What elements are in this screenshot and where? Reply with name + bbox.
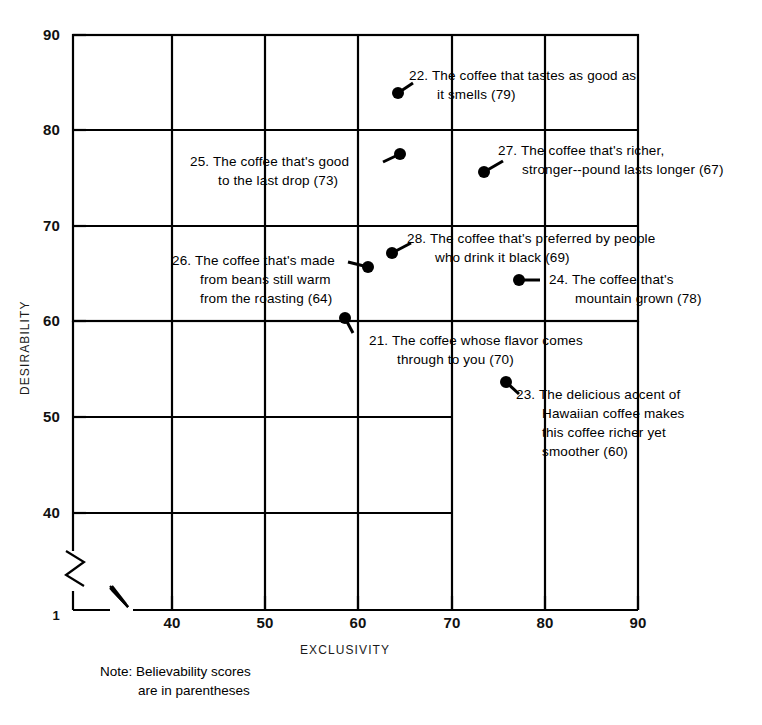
point-26-line1: The coffee that's made	[195, 253, 335, 268]
data-point-24	[513, 274, 540, 286]
y-tick-1: 1	[38, 608, 60, 623]
point-21-number: 21.	[369, 333, 388, 348]
y-tick-50: 50	[20, 408, 60, 425]
point-23-number: 23.	[516, 387, 535, 402]
point-25-number: 25.	[190, 154, 209, 169]
point-27-line2: stronger--pound lasts longer (67)	[498, 160, 724, 179]
point-23-line2: Hawaiian coffee makes	[516, 404, 684, 423]
x-tick-marks	[172, 596, 638, 610]
x-tick-60: 60	[338, 614, 378, 631]
chart-note: Note: Believability scores are in parent…	[100, 662, 251, 700]
x-axis-title: EXCLUSIVITY	[300, 643, 390, 657]
data-point-26	[348, 261, 374, 273]
point-21-line2: through to you (70)	[369, 350, 583, 369]
point-23-line4: smoother (60)	[516, 442, 684, 461]
point-24-line2: mountain grown (78)	[549, 289, 702, 308]
data-point-21	[339, 312, 353, 333]
point-label-27: 27. The coffee that's richer, stronger--…	[498, 141, 724, 179]
chart-note-line1: Note: Believability scores	[100, 664, 251, 679]
point-22-number: 22.	[409, 68, 428, 83]
point-label-21: 21. The coffee whose flavor comes throug…	[369, 331, 583, 369]
point-27-line1: The coffee that's richer,	[521, 143, 664, 158]
y-tick-70: 70	[20, 217, 60, 234]
point-26-line3: from the roasting (64)	[172, 289, 335, 308]
data-point-25	[383, 148, 406, 162]
y-axis-title: DESIRABILITY	[18, 300, 32, 395]
point-28-line1: The coffee that's preferred by people	[430, 231, 656, 246]
x-tick-90: 90	[618, 614, 658, 631]
y-tick-marks	[73, 35, 86, 513]
x-tick-70: 70	[432, 614, 472, 631]
point-26-line2: from beans still warm	[172, 270, 335, 289]
point-label-25: 25. The coffee that's good to the last d…	[190, 152, 349, 190]
point-22-line2: it smells (79)	[409, 85, 636, 104]
point-22-line1: The coffee that tastes as good as	[432, 68, 636, 83]
point-26-number: 26.	[172, 253, 191, 268]
point-28-line2: who drink it black (69)	[407, 248, 655, 267]
point-28-number: 28.	[407, 231, 426, 246]
vertical-gridlines	[172, 35, 545, 610]
x-tick-40: 40	[152, 614, 192, 631]
point-23-line1: The delicious accent of	[539, 387, 681, 402]
x-tick-50: 50	[245, 614, 285, 631]
point-21-line1: The coffee whose flavor comes	[392, 333, 583, 348]
point-label-22: 22. The coffee that tastes as good as it…	[409, 66, 636, 104]
chart-note-line2: are in parentheses	[100, 681, 251, 700]
point-label-23: 23. The delicious accent of Hawaiian cof…	[516, 385, 684, 461]
point-24-line1: The coffee that's	[572, 272, 674, 287]
point-label-28: 28. The coffee that's preferred by peopl…	[407, 229, 655, 267]
x-tick-80: 80	[525, 614, 565, 631]
point-25-line1: The coffee that's good	[213, 154, 349, 169]
point-label-26: 26. The coffee that's made from beans st…	[172, 251, 335, 308]
point-24-number: 24.	[549, 272, 568, 287]
y-axis-break-icon	[66, 551, 84, 586]
point-25-line2: to the last drop (73)	[190, 171, 349, 190]
y-tick-90: 90	[20, 26, 60, 43]
y-tick-80: 80	[20, 121, 60, 138]
scatter-chart: 90 80 70 60 50 40 1 40 50 60 70 80 90 DE…	[0, 0, 762, 725]
x-axis-break-icon	[110, 586, 128, 607]
y-tick-40: 40	[20, 504, 60, 521]
point-23-line3: this coffee richer yet	[516, 423, 684, 442]
point-label-24: 24. The coffee that's mountain grown (78…	[549, 270, 702, 308]
point-27-number: 27.	[498, 143, 517, 158]
